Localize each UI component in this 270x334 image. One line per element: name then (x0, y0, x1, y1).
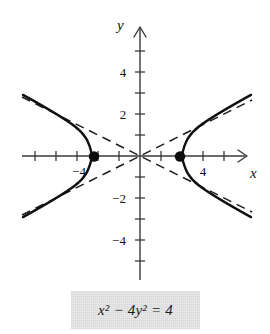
y-tick-label-4: 4 (115, 66, 131, 79)
x-tick-label-neg4: −4 (68, 165, 90, 178)
x-tick-label-4: 4 (196, 165, 210, 178)
vertex-point-right (175, 151, 185, 161)
equation-text: x² − 4y² = 4 (98, 302, 173, 319)
y-axis-label: y (117, 18, 124, 33)
y-tick-label-neg4: −4 (107, 234, 131, 247)
graph-canvas (0, 0, 270, 286)
hyperbola-figure: y x −4 4 4 2 −2 −4 x² − 4y² = 4 (0, 0, 270, 334)
plot-area (0, 0, 270, 286)
y-tick-label-neg2: −2 (107, 192, 131, 205)
y-tick-label-2: 2 (115, 108, 131, 121)
vertex-point-left (89, 151, 99, 161)
equation-caption-box: x² − 4y² = 4 (71, 291, 200, 329)
x-axis-label: x (250, 166, 257, 181)
